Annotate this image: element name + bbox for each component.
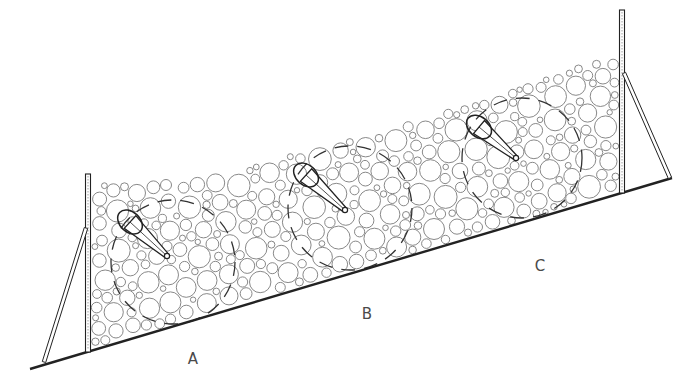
particle [160,292,181,313]
particle [303,196,326,219]
particle [202,191,212,201]
particle [443,164,449,170]
particle [593,60,601,68]
particle [237,200,256,219]
particle [445,119,467,141]
particle [581,125,591,135]
particle [536,82,546,92]
particle [93,290,102,299]
particle [195,239,200,244]
particle [295,278,303,286]
right-retaining-post [620,10,672,193]
particle [529,123,543,137]
particle [374,185,380,191]
particle [282,212,302,232]
particle [187,232,196,241]
particle [267,263,278,274]
particle [219,265,238,284]
particle [505,168,510,173]
particle [207,174,225,192]
particle [491,96,508,113]
particle [245,237,267,259]
particle [493,174,508,189]
particle [391,226,401,236]
particle [433,133,443,143]
particle [531,193,547,209]
particle [379,247,386,254]
particle [258,207,272,221]
particle [371,162,389,180]
zone-label-c: C [535,257,545,275]
particle [195,222,211,238]
particle [93,254,107,268]
particle [340,163,359,182]
particle [517,204,531,218]
particle [576,149,596,169]
particle [480,100,489,109]
particle [364,228,385,249]
particle [385,130,407,152]
particle [566,70,572,76]
particle [404,152,414,162]
particle [595,68,611,84]
particle [546,136,555,145]
particle [589,80,596,87]
particle [239,221,252,234]
particle [403,122,413,132]
particle [444,109,453,118]
particle-fill [91,59,619,345]
particle [250,271,271,292]
particle [449,210,456,217]
particle [417,121,435,139]
particle [279,161,288,170]
particle [128,282,137,291]
particle [552,143,570,161]
particle [322,268,331,277]
particle [434,118,445,129]
particle [523,84,533,94]
particle [435,209,445,219]
particle [544,109,566,131]
particle [259,189,275,205]
particle [403,212,410,219]
particle [174,213,180,219]
particle [510,161,519,170]
particle [155,319,165,329]
particle [399,196,409,206]
particle [229,200,237,208]
particle [380,191,386,197]
particle [97,207,106,216]
particle [215,252,223,260]
particle [566,76,585,95]
particle [212,194,228,210]
particle [139,298,159,318]
particle [133,243,139,249]
particle [568,117,576,125]
particle [414,222,422,230]
particle [359,213,374,228]
particle [411,140,422,151]
particle [426,206,435,215]
particle [104,303,123,322]
particle [327,226,350,249]
particle [610,78,619,87]
particle [247,167,253,173]
particle [350,186,359,195]
particle [584,135,596,147]
particle [335,162,341,168]
particle [192,268,199,275]
particle [178,182,189,193]
particle [456,182,466,192]
particle [107,184,120,197]
particle [409,246,417,254]
particle [190,297,195,302]
particle [537,117,543,123]
particle [454,112,460,118]
particle [607,110,612,115]
particle [590,86,610,106]
particle [355,227,365,237]
particle [180,261,190,271]
particle [304,218,310,224]
particle [235,251,244,260]
particle [138,272,159,293]
